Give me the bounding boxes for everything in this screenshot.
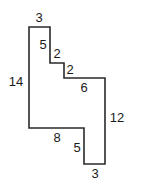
dimension-diagram: 3 5 2 2 6 14 12 8 5 3 — [0, 0, 150, 184]
label-bottom-3: 3 — [91, 166, 98, 181]
label-step-horizontal-2a: 2 — [53, 46, 60, 61]
label-right-12: 12 — [110, 110, 124, 125]
label-left-14: 14 — [9, 74, 23, 89]
label-top-3: 3 — [35, 10, 42, 25]
label-inner-vertical-5: 5 — [73, 140, 80, 155]
label-step-vertical-5: 5 — [39, 37, 46, 52]
label-step-horizontal-2b: 2 — [66, 62, 73, 77]
label-bottom-left-8: 8 — [53, 130, 60, 145]
label-upper-right-6: 6 — [80, 80, 87, 95]
